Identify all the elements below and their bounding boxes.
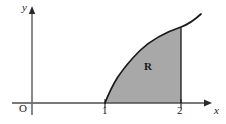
math-figure: y x O 1 2 R xyxy=(0,0,226,124)
y-axis-arrow-icon xyxy=(29,6,35,14)
figure-canvas xyxy=(0,0,226,124)
x-axis-arrow-icon xyxy=(204,100,212,107)
shaded-region-R xyxy=(105,27,181,103)
